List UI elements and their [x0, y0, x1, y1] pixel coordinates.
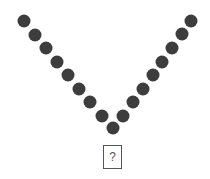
left-arm-dot	[96, 110, 109, 123]
vertex-dot	[107, 122, 120, 135]
left-arm-dot	[84, 96, 97, 109]
left-arm-dot	[29, 29, 42, 42]
right-arm-dot	[185, 15, 198, 28]
left-arm-dot	[40, 42, 53, 55]
right-arm-dot	[117, 110, 130, 123]
right-arm-dot	[147, 69, 160, 82]
question-mark: ?	[109, 150, 116, 164]
left-arm-dot	[51, 56, 64, 69]
right-arm-dot	[156, 56, 169, 69]
left-arm-dot	[18, 15, 31, 28]
left-arm-dot	[73, 83, 86, 96]
left-arm-dot	[62, 69, 75, 82]
right-arm-dot	[137, 83, 150, 96]
right-arm-dot	[166, 42, 179, 55]
right-arm-dot	[176, 28, 189, 41]
right-arm-dot	[127, 96, 140, 109]
answer-box: ?	[103, 145, 122, 169]
